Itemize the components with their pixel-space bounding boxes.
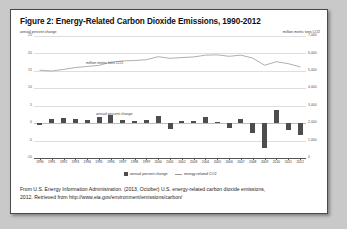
y-tick-left: 20 — [20, 52, 32, 56]
line-series — [34, 36, 306, 158]
y-tick-right: 4,000 — [308, 86, 324, 90]
x-tick-label: 2000 — [154, 161, 161, 164]
x-tick-label: 1998 — [131, 161, 138, 164]
x-tick-label: 1991 — [48, 161, 55, 164]
inplot-bars-label: annual percent change — [96, 112, 133, 116]
x-tick-label: 2012 — [296, 161, 303, 164]
inplot-line-label: million metric tons CO2 — [86, 61, 123, 65]
x-tick-label: 2001 — [166, 161, 173, 164]
figure-title: Figure 2: Energy-Related Carbon Dioxide … — [20, 17, 261, 26]
y-tick-right: 6,000 — [308, 52, 324, 56]
x-tick-label: 2010 — [273, 161, 280, 164]
legend-line-label: energy-related CO2 — [184, 172, 216, 176]
legend-bar-swatch-icon — [124, 172, 128, 176]
legend-bars-label: annual percent change — [130, 172, 168, 176]
x-tick-label: 2009 — [261, 161, 268, 164]
x-tick-label: 2007 — [237, 161, 244, 164]
x-tick-label: 2004 — [202, 161, 209, 164]
legend-line-swatch-icon — [175, 174, 182, 175]
x-tick-label: 2002 — [178, 161, 185, 164]
x-tick-label: 2005 — [214, 161, 221, 164]
x-tick-label: 1992 — [60, 161, 67, 164]
y-tick-left: 5 — [20, 104, 32, 108]
y-tick-left: 25 — [20, 34, 32, 38]
y-tick-right: 0 — [308, 156, 324, 160]
y-tick-right: 5,000 — [308, 69, 324, 73]
y-tick-right: 2,000 — [308, 121, 324, 125]
legend-item-bars: annual percent change — [124, 172, 168, 176]
x-tick-label: 1990 — [36, 161, 43, 164]
y-tick-left: 10 — [20, 86, 32, 90]
x-tick-label: 1996 — [107, 161, 114, 164]
x-tick-label: 2003 — [190, 161, 197, 164]
x-axis: 1990199119921993199419951996199719981999… — [34, 158, 306, 172]
x-tick-label: 2008 — [249, 161, 256, 164]
source-note: From U.S. Energy Information Administrat… — [20, 186, 320, 202]
y-tick-left: -10 — [20, 156, 32, 160]
y-tick-left: -5 — [20, 139, 32, 143]
legend-item-line: energy-related CO2 — [175, 172, 217, 176]
x-tick-label: 2006 — [225, 161, 232, 164]
x-tick-label: 2011 — [285, 161, 292, 164]
figure-card: Figure 2: Energy-Related Carbon Dioxide … — [10, 9, 328, 214]
x-tick-label: 1999 — [143, 161, 150, 164]
y-tick-right: 7,000 — [308, 34, 324, 38]
y-tick-right: 1,000 — [308, 139, 324, 143]
chart-area: annual percent change million metric ton… — [20, 30, 320, 180]
y-tick-right: 3,000 — [308, 104, 324, 108]
plot-region: 2520151050-5-10 7,0006,0005,0004,0003,00… — [34, 36, 306, 158]
x-tick-label: 1997 — [119, 161, 126, 164]
x-tick-label: 1993 — [72, 161, 79, 164]
x-tick-label: 1994 — [84, 161, 91, 164]
source-note-line-1: From U.S. Energy Information Administrat… — [20, 186, 320, 194]
chart-legend: annual percent change energy-related CO2 — [34, 172, 306, 176]
x-tick-label: 1995 — [95, 161, 102, 164]
y-tick-left: 15 — [20, 69, 32, 73]
y-tick-left: 0 — [20, 121, 32, 125]
source-note-line-2: 2012. Retrieved from http://www.eia.gov/… — [20, 194, 320, 202]
